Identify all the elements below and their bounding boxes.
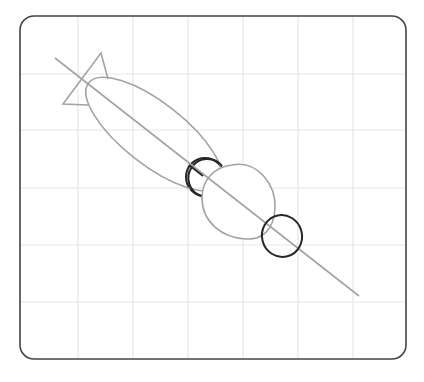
guide-line bbox=[55, 58, 359, 296]
sketch-canvas bbox=[0, 0, 424, 382]
